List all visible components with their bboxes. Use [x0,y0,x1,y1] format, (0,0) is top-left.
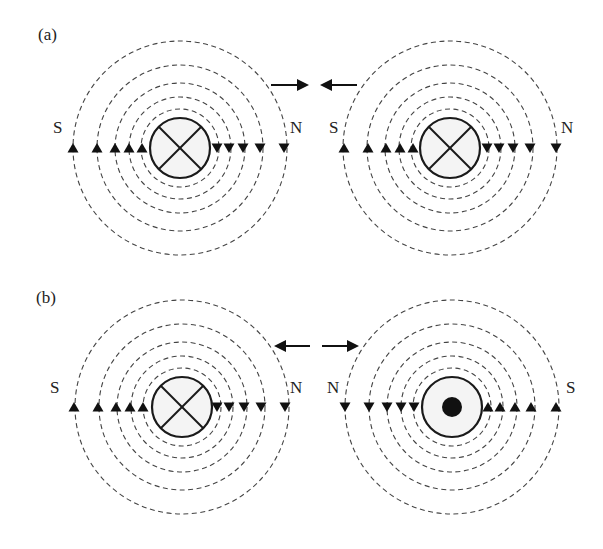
force-arrow-right [271,79,309,91]
conductor-a-right [339,41,562,255]
pole-label-s: S [329,118,338,137]
field-direction-arrows-left-up [68,143,148,153]
conductor-a-left [68,41,290,255]
panel-a: (a) [38,25,573,255]
current-into-page-icon [150,118,210,178]
pole-label-s: S [566,378,575,397]
conductor-b-right [340,300,562,514]
current-into-page-icon [152,377,212,437]
pole-label-s: S [53,118,62,137]
magnetic-field-diagram: (a) [0,0,603,549]
field-direction-arrows-left-down [340,403,420,413]
pole-label-n: N [327,378,339,397]
panel-b: (b) [36,288,575,514]
current-into-page-icon [420,118,480,178]
field-direction-arrows-left-up [69,402,149,412]
panel-label-b: (b) [36,288,56,307]
force-arrow-left [274,340,310,352]
force-arrow-right [322,340,359,352]
panel-label-a: (a) [38,25,57,44]
pole-label-s: S [50,378,59,397]
conductor-b-left [69,300,291,514]
pole-label-n: N [561,118,573,137]
current-out-of-page-icon [422,377,482,437]
field-direction-arrows-left-up [339,143,419,153]
field-direction-arrows-right-up [483,402,562,412]
field-direction-arrows-right-down [212,403,291,413]
field-direction-arrows-right-down [482,144,562,154]
pole-label-n: N [290,118,302,137]
pole-label-n: N [290,378,302,397]
field-direction-arrows-right-down [212,144,290,154]
force-arrow-left [320,79,357,91]
